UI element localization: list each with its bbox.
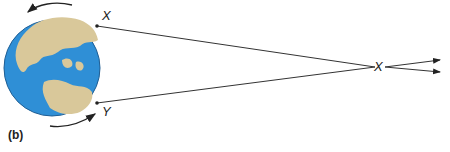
panel-label: (b) bbox=[8, 128, 23, 142]
convergence-x-label: X bbox=[374, 59, 383, 74]
point-y-label: Y bbox=[102, 104, 111, 119]
sight-lines bbox=[95, 24, 440, 105]
earth-globe bbox=[4, 17, 100, 116]
point-x-label: X bbox=[102, 8, 111, 23]
earth-parallax-diagram bbox=[0, 0, 450, 152]
